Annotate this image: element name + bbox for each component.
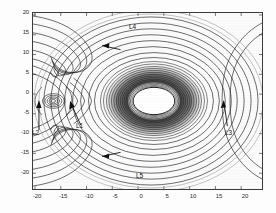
right-outer-contours xyxy=(222,21,262,181)
annotation-label-l2: L2 xyxy=(32,129,39,136)
x-tick-label: 0 xyxy=(131,193,151,199)
contour-canvas xyxy=(33,13,262,189)
l1-neck-contours xyxy=(35,78,92,123)
y-tick-label: -15 xyxy=(12,149,29,155)
x-tick-label: 5 xyxy=(157,193,177,199)
annotation-label-l3: L3 xyxy=(225,129,232,136)
y-tick-label: 5 xyxy=(12,69,29,75)
y-tick-label: 10 xyxy=(12,49,29,55)
primary-inner-void xyxy=(133,87,175,114)
plot-area xyxy=(32,12,263,190)
x-tick-label: 15 xyxy=(209,193,229,199)
y-tick-label: -10 xyxy=(12,129,29,135)
secondary-body-contours xyxy=(42,94,64,109)
annotation-label-l1: L1 xyxy=(76,122,83,129)
contour-plot-figure: 20 15 10 5 0 -5 -10 -15 -20 -20 -15 -10 … xyxy=(0,0,276,213)
y-tick-label: -20 xyxy=(12,169,29,175)
y-tick-label: 20 xyxy=(12,9,29,15)
x-tick-label: -15 xyxy=(53,193,73,199)
x-tick-label: -5 xyxy=(105,193,125,199)
x-tick-label: 10 xyxy=(183,193,203,199)
figure-root: 20 15 10 5 0 -5 -10 -15 -20 -20 -15 -10 … xyxy=(0,0,276,213)
x-tick-label: -20 xyxy=(27,193,47,199)
annotation-label-l5: L5 xyxy=(136,172,143,179)
y-tick-label: 0 xyxy=(12,89,29,95)
annotation-label-l4: L4 xyxy=(129,23,136,30)
x-tick-label: 20 xyxy=(235,193,255,199)
x-tick-label: -10 xyxy=(79,193,99,199)
y-tick-label: -5 xyxy=(12,109,29,115)
y-tick-label: 15 xyxy=(12,29,29,35)
